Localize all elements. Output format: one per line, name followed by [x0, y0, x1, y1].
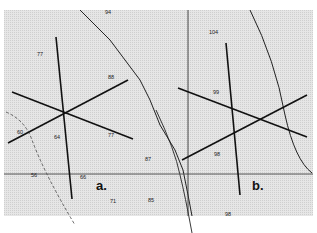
depth-label: 64 — [54, 134, 60, 140]
depth-label: 71 — [110, 198, 116, 204]
depth-label: 98 — [214, 151, 220, 157]
depth-label: 66 — [80, 174, 86, 180]
map-background — [4, 10, 313, 216]
depth-label: 56 — [31, 172, 37, 178]
depth-label: 85 — [148, 197, 154, 203]
panel-label-b: b. — [252, 178, 264, 193]
depth-label: 60 — [17, 129, 23, 135]
panel-label-a: a. — [96, 178, 107, 193]
depth-label: 88 — [108, 74, 114, 80]
depth-label: 104 — [209, 29, 218, 35]
bathymetric-map: 94 77 88 60 64 77 87 56 66 71 85 104 99 … — [0, 0, 317, 233]
depth-label: 77 — [108, 132, 114, 138]
depth-label: 77 — [37, 51, 43, 57]
depth-label: 94 — [105, 9, 111, 15]
depth-label: 99 — [213, 89, 219, 95]
depth-label: 87 — [145, 156, 151, 162]
depth-label: 98 — [225, 211, 231, 217]
